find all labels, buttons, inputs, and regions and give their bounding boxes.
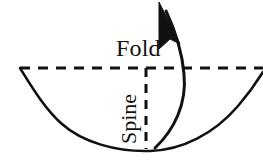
spine-label: Spine — [118, 94, 140, 144]
open-book-cross-section-icon — [20, 68, 263, 151]
curved-up-arrow-head — [159, 2, 180, 49]
fold-label: Fold — [116, 36, 161, 60]
figure-canvas: Fold Spine — [0, 0, 263, 166]
